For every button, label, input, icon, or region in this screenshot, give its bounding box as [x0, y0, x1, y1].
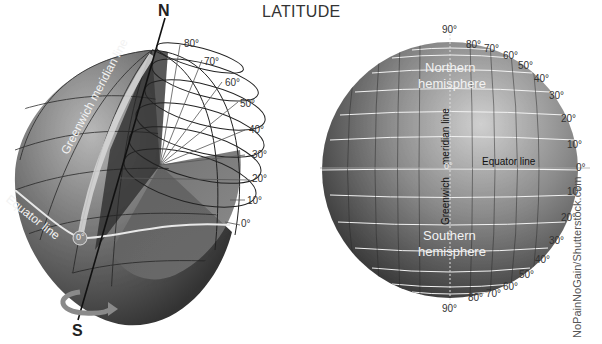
n-tick-50: 50°	[518, 60, 533, 71]
n-tick-60: 60°	[503, 50, 518, 61]
greenwich-label: Greenwich	[440, 177, 451, 225]
south-pole-label: S	[72, 322, 83, 340]
s-tick-80: 80°	[468, 292, 483, 303]
center-zero-label: 0°	[444, 161, 453, 171]
southern-hemisphere-line1: Southern	[423, 228, 476, 243]
meridian-line-label: meridian line	[440, 108, 451, 165]
lat-tick-20: 20°	[252, 173, 267, 184]
equator-tick-0: 0°	[576, 162, 586, 173]
left-globe	[15, 18, 270, 325]
s-tick-70: 70°	[486, 288, 501, 299]
lat-tick-50: 50°	[240, 98, 255, 109]
equator-label-right: Equator line	[482, 156, 535, 167]
south-pole-90-label: 90°	[442, 303, 457, 314]
s-tick-40: 40°	[535, 254, 550, 265]
s-tick-30: 30°	[549, 235, 564, 246]
lat-tick-80: 80°	[184, 38, 199, 49]
lat-tick-0: 0°	[241, 218, 251, 229]
lat-tick-70: 70°	[204, 56, 219, 67]
n-tick-20: 20°	[561, 113, 576, 124]
n-tick-80: 80°	[466, 39, 481, 50]
lat-tick-30: 30°	[252, 149, 267, 160]
n-tick-70: 70°	[484, 43, 499, 54]
s-tick-50: 50°	[519, 269, 534, 280]
lat-tick-10: 10°	[247, 195, 262, 206]
north-pole-90-label: 90°	[442, 24, 457, 35]
n-tick-30: 30°	[549, 90, 564, 101]
s-tick-60: 60°	[503, 281, 518, 292]
southern-hemisphere-line2: hemisphere	[418, 244, 486, 259]
n-tick-40: 40°	[534, 73, 549, 84]
lat-tick-60: 60°	[225, 77, 240, 88]
north-pole-label: N	[158, 2, 170, 20]
n-tick-10: 10°	[567, 139, 582, 150]
page-title: LATITUDE	[262, 3, 341, 21]
lat-tick-40: 40°	[249, 124, 264, 135]
origin-label: 0°	[76, 232, 85, 242]
image-credit: NoPainNoGain/Shutterstock.com	[571, 177, 583, 338]
northern-hemisphere-line2: hemisphere	[418, 76, 486, 91]
northern-hemisphere-line1: Northern	[425, 60, 476, 75]
